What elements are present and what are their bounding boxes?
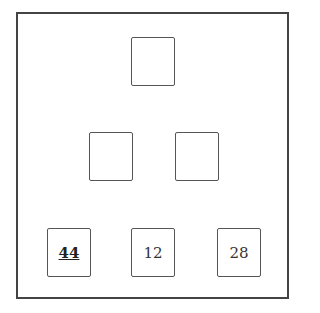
pyramid-cell-bottom-left: 44 [47, 228, 91, 277]
pyramid-cell-top [131, 37, 175, 86]
pyramid-cell-bottom-right: 28 [217, 228, 261, 277]
pyramid-cell-middle-right [175, 132, 219, 181]
pyramid-cell-bottom-center: 12 [131, 228, 175, 277]
pyramid-cell-middle-left [89, 132, 133, 181]
